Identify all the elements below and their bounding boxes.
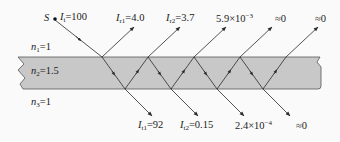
source-point [53,17,57,21]
transmitted-label-1: It1=92 [138,120,163,132]
reflected-label-5: ≈0 [315,14,326,25]
medium-label-n2: n2=1.5 [31,66,59,78]
transmitted-ray-4 [263,89,290,116]
transmitted-rays [125,89,290,116]
reflected-ray-3 [194,27,226,57]
medium-label-n1: n1=1 [31,42,51,54]
reflected-label-1: Ir1=4.0 [116,13,144,25]
medium-label-n3: n3=1 [31,97,51,109]
transmitted-label-2: It2=0.15 [180,120,213,132]
transmitted-label-4: ≈0 [296,121,307,132]
glass-slab [18,57,321,89]
reflected-label-4: ≈0 [275,14,286,25]
transmitted-ray-1 [125,89,152,116]
incident-intensity-label: Ii=100 [60,12,87,24]
reflected-label-2: Ir2=3.7 [166,13,194,25]
source-label: S [44,13,49,24]
reflected-label-3: 5.9×10−3 [216,13,253,25]
transmitted-label-3: 2.4×10−4 [235,120,272,132]
transmitted-ray-3 [217,89,244,116]
reflected-ray-2 [148,27,180,57]
reflected-ray-4 [240,27,272,57]
transmitted-ray-2 [171,89,198,116]
reflected-rays [102,27,318,57]
reflected-ray-5 [286,27,318,57]
reflected-ray-1 [102,27,134,57]
